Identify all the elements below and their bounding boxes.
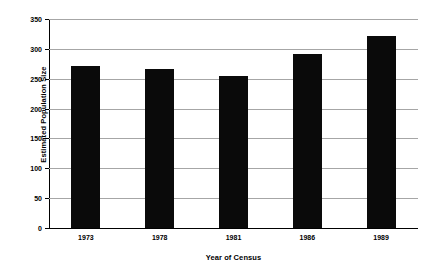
y-tick-label: 300 [2,46,42,53]
plot-area [49,19,418,228]
bar-1978 [145,69,174,228]
bar-1986 [293,54,322,228]
y-tick-label: 150 [2,135,42,142]
x-tick-label: 1986 [277,234,337,241]
x-tick-label: 1978 [130,234,190,241]
x-tick-label: 1989 [351,234,411,241]
x-tick-label: 1981 [204,234,264,241]
y-tick-label: 50 [2,195,42,202]
y-tick-label: 350 [2,16,42,23]
y-tick-label: 0 [2,225,42,232]
gridline-0 [49,228,418,229]
gridline-300 [49,49,418,50]
bar-1981 [219,76,248,228]
x-axis-title: Year of Census [49,253,418,262]
gridline-350 [49,19,418,20]
bar-1989 [367,36,396,228]
bar-1973 [71,66,100,228]
y-tick-label: 100 [2,165,42,172]
y-tick-label: 250 [2,76,42,83]
bar-chart: Estimated Population Size 05010015020025… [0,0,433,273]
x-tick-label: 1973 [56,234,116,241]
y-tick-label: 200 [2,106,42,113]
